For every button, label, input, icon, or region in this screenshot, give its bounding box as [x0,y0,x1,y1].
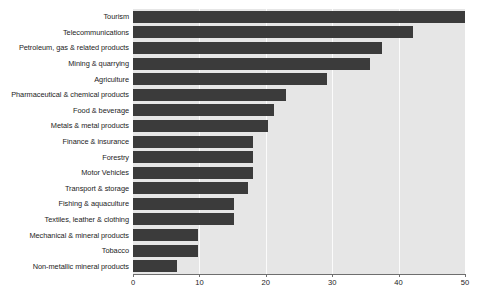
y-axis-label: Metals & metal products [0,121,129,130]
y-axis-label: Motor Vehicles [0,168,129,177]
y-axis-label: Agriculture [0,75,129,84]
x-axis-tick [399,274,400,277]
bar [133,89,286,101]
y-axis-label: Food & beverage [0,106,129,115]
y-axis-label: Finance & insurance [0,137,129,146]
bar [133,182,248,194]
x-axis-tick [332,274,333,277]
gridline [399,9,400,274]
y-axis-label: Textiles, leather & clothing [0,215,129,224]
x-axis-tick [465,274,466,277]
x-axis-tick [133,274,134,277]
bar [133,229,198,241]
x-axis-tick [199,274,200,277]
y-axis-label: Tobacco [0,246,129,255]
horizontal-bar-chart: TourismTelecommunicationsPetroleum, gas … [0,0,477,294]
x-axis-line [133,274,466,275]
bar [133,136,253,148]
bar [133,73,327,85]
plot-area [133,9,465,274]
y-axis-label: Petroleum, gas & related products [0,43,129,52]
bar [133,11,465,23]
x-axis-tick-label: 0 [113,278,153,288]
bar [133,167,253,179]
x-axis-tick [266,274,267,277]
x-axis-tick-label: 20 [246,278,286,288]
bar [133,104,274,116]
bar [133,198,234,210]
y-axis-label: Fishing & aquaculture [0,199,129,208]
clipped-title-remnant [0,0,477,7]
y-axis-label: Forestry [0,153,129,162]
bar [133,42,382,54]
y-axis-category-labels: TourismTelecommunicationsPetroleum, gas … [0,9,129,274]
x-axis-tick-label: 30 [312,278,352,288]
bar [133,120,268,132]
y-axis-label: Telecommunications [0,28,129,37]
x-axis-tick-label: 40 [379,278,419,288]
y-axis-label: Mining & quarrying [0,59,129,68]
x-axis-tick-label: 10 [179,278,219,288]
bar [133,151,253,163]
bar [133,260,177,272]
bar [133,245,198,257]
y-axis-label: Mechanical & mineral products [0,231,129,240]
bar [133,213,234,225]
bar [133,58,370,70]
y-axis-label: Tourism [0,12,129,21]
y-axis-label: Non-metallic mineral products [0,262,129,271]
y-axis-label: Pharmaceutical & chemical products [0,90,129,99]
y-axis-label: Transport & storage [0,184,129,193]
x-axis-tick-label: 50 [445,278,477,288]
bar [133,26,413,38]
